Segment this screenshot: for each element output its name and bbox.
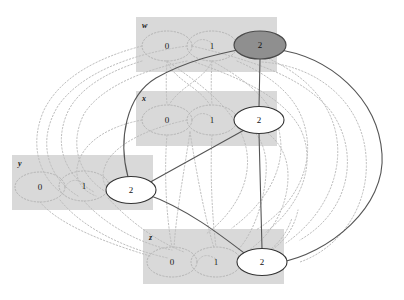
node-y-2[interactable] — [106, 177, 156, 204]
graph-canvas — [0, 0, 404, 300]
dotted-edge — [167, 61, 248, 234]
constraint-graph-figure: w x y z 0 1 2 0 1 2 0 1 2 0 1 2 — [0, 0, 404, 300]
dotted-edge — [192, 61, 307, 232]
node-z-2[interactable] — [237, 249, 287, 276]
dotted-edge — [166, 61, 167, 105]
node-w-2[interactable] — [234, 31, 286, 59]
dotted-edge — [211, 61, 212, 105]
node-x-2[interactable] — [234, 107, 284, 134]
dotted-constraint-edges — [37, 40, 367, 262]
